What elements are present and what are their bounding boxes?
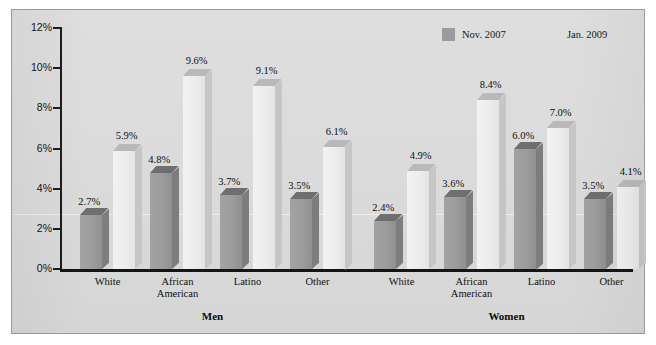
bar-men-white-nov-2007: 2.7% (80, 215, 102, 269)
group-label-women: Women (374, 310, 639, 322)
bar-front-face (220, 195, 242, 269)
bar-men-latino-nov-2007: 3.7% (220, 195, 242, 269)
bar-value-label: 4.8% (148, 154, 170, 165)
bar-women-other-nov-2007: 3.5% (584, 199, 606, 269)
bar-side-face (429, 164, 436, 269)
bar-side-face (569, 122, 576, 269)
bar-women-latino-jan-2009: 7.0% (547, 128, 569, 269)
bar-side-face (606, 192, 613, 269)
bar-front-face (323, 147, 345, 270)
bar-value-label: 3.7% (218, 176, 240, 187)
bar-side-face (536, 142, 543, 269)
chart-frame: 12%10%8%6%4%2%0% Nov. 2007 Jan. 2009 2.7… (11, 9, 645, 334)
bar-side-face (499, 94, 506, 269)
bar-value-label: 2.7% (78, 196, 100, 207)
bar-side-face (205, 70, 212, 269)
bar-front-face (407, 171, 429, 269)
bar-value-label: 9.6% (186, 55, 208, 66)
bar-side-face (345, 140, 352, 269)
bar-front-face (183, 76, 205, 269)
bar-front-face (150, 173, 172, 269)
bar-value-label: 7.0% (550, 107, 572, 118)
bar-men-african-american-jan-2009: 9.6% (183, 76, 205, 269)
page-top-bleed (0, 0, 656, 9)
x-category-label-women-other: Other (568, 276, 655, 288)
bar-value-label: 8.4% (480, 79, 502, 90)
bar-front-face (374, 221, 396, 269)
bar-side-face (102, 208, 109, 269)
bar-value-label: 5.9% (116, 130, 138, 141)
bar-front-face (584, 199, 606, 269)
bar-side-face (312, 192, 319, 269)
bar-men-latino-jan-2009: 9.1% (253, 86, 275, 269)
bar-front-face (477, 100, 499, 269)
bar-side-face (466, 190, 473, 269)
bar-men-other-nov-2007: 3.5% (290, 199, 312, 269)
bar-side-face (639, 180, 646, 269)
bar-side-face (135, 144, 142, 269)
bar-men-white-jan-2009: 5.9% (113, 151, 135, 269)
plot-area: 12%10%8%6%4%2%0% Nov. 2007 Jan. 2009 2.7… (12, 10, 646, 335)
bar-women-latino-nov-2007: 6.0% (514, 149, 536, 270)
bar-side-face (172, 166, 179, 269)
bar-value-label: 6.1% (326, 126, 348, 137)
bar-value-label: 4.1% (620, 166, 642, 177)
bar-value-label: 6.0% (512, 130, 534, 141)
bar-value-label: 4.9% (410, 150, 432, 161)
bar-front-face (253, 86, 275, 269)
bar-value-label: 3.6% (442, 178, 464, 189)
bar-front-face (547, 128, 569, 269)
bar-women-white-nov-2007: 2.4% (374, 221, 396, 269)
bar-men-other-jan-2009: 6.1% (323, 147, 345, 270)
group-label-men: Men (80, 310, 345, 322)
bar-value-label: 3.5% (288, 180, 310, 191)
bar-women-white-jan-2009: 4.9% (407, 171, 429, 269)
bar-front-face (80, 215, 102, 269)
chart-page: 12%10%8%6%4%2%0% Nov. 2007 Jan. 2009 2.7… (0, 0, 656, 345)
bar-women-african-american-jan-2009: 8.4% (477, 100, 499, 269)
bar-women-other-jan-2009: 4.1% (617, 187, 639, 269)
bar-side-face (242, 188, 249, 269)
bar-front-face (290, 199, 312, 269)
bar-front-face (113, 151, 135, 269)
x-category-label-men-other: Other (274, 276, 361, 288)
bar-front-face (617, 187, 639, 269)
bar-women-african-american-nov-2007: 3.6% (444, 197, 466, 269)
bar-value-label: 2.4% (372, 202, 394, 213)
cut-off-caption-text (52, 0, 612, 2)
bar-value-label: 3.5% (582, 180, 604, 191)
bar-front-face (514, 149, 536, 270)
bar-value-label: 9.1% (256, 65, 278, 76)
bar-front-face (444, 197, 466, 269)
bar-men-african-american-nov-2007: 4.8% (150, 173, 172, 269)
bar-side-face (396, 215, 403, 269)
bar-side-face (275, 80, 282, 269)
